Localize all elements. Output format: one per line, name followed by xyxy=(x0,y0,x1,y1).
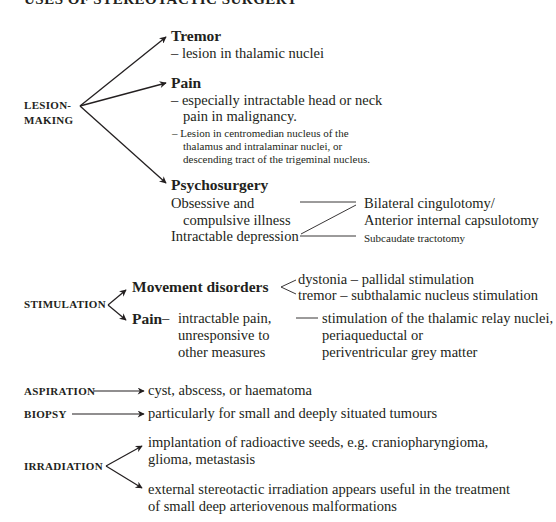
psych-indication1-line2: compulsive illness xyxy=(183,212,291,229)
pain-desc-line2: pain in malignancy. xyxy=(183,108,297,125)
pain-desc-line1: – especially intractable head or neck xyxy=(171,92,382,109)
movement-item2: tremor – subthalamic nucleus stimulation xyxy=(298,287,538,304)
heading-movement-disorders: Movement disorders xyxy=(132,278,268,296)
arrow-to-pain xyxy=(80,83,166,106)
stim-pain-desc-line1: intractable pain, xyxy=(178,310,271,327)
category-label-line1: LESION- xyxy=(24,98,73,113)
category-biopsy: BIOPSY xyxy=(24,407,67,422)
irradiation-item1-line2: glioma, metastasis xyxy=(148,451,255,468)
pain-note-line2: thalamus and intralaminar nuclei, or xyxy=(183,139,342,153)
category-stimulation: STIMULATION xyxy=(24,297,106,312)
irradiation-item2-line2: of small deep arteriovenous malformation… xyxy=(148,498,397,515)
irradiation-item2-line1: external stereotactic irradiation appear… xyxy=(148,481,510,498)
category-irradiation: IRRADIATION xyxy=(24,459,103,474)
stim-pain-target-line1: stimulation of the thalamic relay nuclei… xyxy=(322,310,553,327)
heading-tremor: Tremor xyxy=(171,27,221,45)
page-title: USES OF STEREOTACTIC SURGERY xyxy=(24,0,298,8)
pain-note-line1: – Lesion in centromedian nucleus of the xyxy=(172,126,349,140)
heading-pain: Pain xyxy=(171,74,201,92)
heading-psychosurgery: Psychosurgery xyxy=(171,176,268,194)
psych-indication2: Intractable depression xyxy=(171,228,299,245)
stim-pain-target-line3: periventricular grey matter xyxy=(322,344,477,361)
psych-indication1-line1: Obsessive and xyxy=(171,195,254,212)
irradiation-item1-line1: implantation of radioactive seeds, e.g. … xyxy=(148,434,488,451)
stim-pain-dash: – xyxy=(162,310,169,327)
tremor-desc: – lesion in thalamic nuclei xyxy=(171,45,324,62)
biopsy-desc: particularly for small and deeply situat… xyxy=(148,405,437,422)
psych-procedure1-line2: Anterior internal capsulotomy xyxy=(364,212,539,229)
arrow-to-tremor xyxy=(80,37,166,106)
category-aspiration: ASPIRATION xyxy=(24,384,95,399)
psych-procedure2: Subcaudate tractotomy xyxy=(364,231,465,245)
stim-pain-target-line2: periaqueductal or xyxy=(322,327,423,344)
stim-pain-desc-line2: unresponsive to xyxy=(178,327,269,344)
movement-item1: dystonia – pallidal stimulation xyxy=(298,271,474,288)
stim-pain-desc-line3: other measures xyxy=(178,344,265,361)
psych-procedure1-line1: Bilateral cingulotomy/ xyxy=(364,195,495,212)
category-lesion-making: LESION- MAKING xyxy=(24,98,73,128)
category-label-line2: MAKING xyxy=(24,113,73,128)
heading-stim-pain: Pain xyxy=(132,310,162,328)
pain-note-line3: descending tract of the trigeminal nucle… xyxy=(183,152,370,166)
arrow-to-psychosurgery xyxy=(80,106,166,183)
aspiration-desc: cyst, abscess, or haematoma xyxy=(148,382,312,399)
